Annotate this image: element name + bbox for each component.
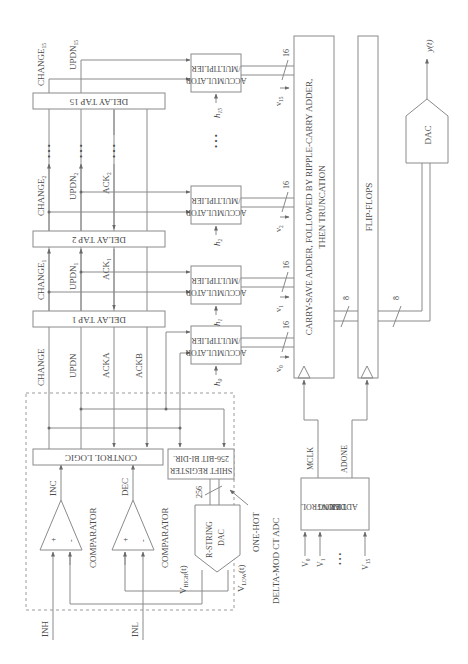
svg-text:v1: v1 — [274, 305, 284, 312]
svg-text:CHANGE15: CHANGE15 — [36, 43, 47, 86]
delay-tap-2: DELAY TAP 2 — [33, 231, 165, 247]
svg-text:UPDN15: UPDN15 — [68, 40, 79, 70]
delay-tap-1: DELAY TAP 1 — [33, 311, 165, 327]
svg-text:16: 16 — [282, 181, 291, 189]
svg-text:/MULTIPLIER: /MULTIPLIER — [191, 64, 241, 73]
shift-register-block: 256-BIT BI-DIR. SHIFT REGISTER — [168, 449, 234, 479]
svg-text:16: 16 — [282, 321, 291, 329]
svg-text:16: 16 — [282, 261, 291, 269]
svg-text:UPDN1: UPDN1 — [68, 262, 79, 290]
svg-text:h2: h2 — [212, 239, 223, 247]
bus-acc0: 16 v0 — [241, 321, 294, 372]
svg-text:DAC: DAC — [423, 125, 433, 144]
comparator-dec: + - COMPARATOR DEC — [112, 465, 170, 568]
svg-text:MCLK: MCLK — [306, 447, 315, 470]
svg-text:UPDN2: UPDN2 — [68, 172, 79, 200]
svg-text:ACKA: ACKA — [101, 352, 111, 378]
bus-acc2: 16 v2 — [241, 181, 294, 232]
svg-text:ADDER: ADDER — [330, 502, 358, 511]
svg-text:8: 8 — [342, 296, 351, 300]
svg-text:V15: V15 — [361, 558, 371, 570]
coefficient-h1: h1 — [212, 306, 223, 326]
svg-text:COMPARATOR: COMPARATOR — [160, 507, 170, 568]
svg-text:/MULTIPLIER: /MULTIPLIER — [191, 196, 241, 205]
input-inl: INL — [130, 552, 143, 640]
svg-text:8: 8 — [392, 296, 401, 300]
ellipsis-updn: • • • — [76, 144, 86, 158]
svg-text:• • •: • • • — [336, 552, 345, 565]
svg-text:INL: INL — [130, 622, 140, 637]
coefficient-h0: h0 — [212, 366, 223, 386]
svg-text:V0: V0 — [301, 558, 311, 567]
svg-text:-: - — [139, 539, 148, 542]
svg-text:h0: h0 — [212, 379, 223, 387]
svg-text:ACCUMULATOR: ACCUMULATOR — [185, 76, 246, 85]
svg-text:CHANGE1: CHANGE1 — [36, 260, 47, 301]
svg-text:THEN TRUNCATION: THEN TRUNCATION — [317, 165, 327, 249]
bus-acc15: 16 v15 — [241, 49, 294, 106]
adc-region-border — [26, 393, 234, 610]
svg-text:CHANGE2: CHANGE2 — [36, 176, 47, 217]
coefficient-h2: h2 — [212, 226, 223, 246]
svg-text:256-BIT BI-DIR.: 256-BIT BI-DIR. — [173, 454, 229, 463]
control-logic-block: CONTROL LOGIC — [33, 449, 163, 465]
svg-text:256: 256 — [195, 486, 204, 498]
svg-text:INC: INC — [48, 481, 58, 497]
svg-text:ACCUMULATOR: ACCUMULATOR — [185, 208, 246, 217]
svg-text:ACK2: ACK2 — [101, 172, 112, 194]
accumulator-multiplier-1: /MULTIPLIER ACCUMULATOR — [185, 266, 246, 304]
comparator-inc: + - COMPARATOR INC — [40, 465, 98, 568]
svg-text:R-STRING: R-STRING — [205, 521, 214, 558]
accumulator-multiplier-2: /MULTIPLIER ACCUMULATOR — [185, 186, 246, 224]
svg-text:DELAY TAP 2: DELAY TAP 2 — [72, 235, 126, 245]
svg-text:DAC: DAC — [217, 529, 226, 546]
delta-mod-ct-adc-fir-diagram: DELTA-MOD CT ADC INH INL + - COMPARATOR … — [0, 0, 468, 664]
svg-text:DELAY TAP 1: DELAY TAP 1 — [72, 315, 126, 325]
svg-text:VLOW(t): VLOW(t) — [236, 564, 247, 592]
svg-text:SHIFT REGISTER: SHIFT REGISTER — [169, 466, 232, 475]
svg-text:ONE-HOT: ONE-HOT — [251, 512, 261, 552]
svg-text:CARRY-SAVE ADDER, FOLLOWED BY: CARRY-SAVE ADDER, FOLLOWED BY RIPPLE-CAR… — [304, 79, 314, 335]
bus-acc1: 16 v1 — [241, 261, 294, 312]
svg-text:ADONE: ADONE — [340, 445, 349, 473]
svg-text:v0: v0 — [274, 365, 284, 372]
svg-text:/MULTIPLIER: /MULTIPLIER — [191, 276, 241, 285]
svg-text:+: + — [49, 537, 58, 542]
svg-text:DELAY TAP 15: DELAY TAP 15 — [69, 97, 128, 107]
svg-text:INH: INH — [40, 621, 50, 637]
svg-text:v15: v15 — [274, 96, 284, 106]
svg-text:16: 16 — [282, 49, 291, 57]
svg-text:ACKB: ACKB — [134, 353, 144, 378]
carry-save-adder-block: CARRY-SAVE ADDER, FOLLOWED BY RIPPLE-CAR… — [294, 36, 334, 378]
svg-text:UPDN: UPDN — [68, 353, 78, 378]
output-dac-block: DAC — [406, 99, 448, 163]
svg-text:ACCUMULATOR: ACCUMULATOR — [185, 348, 246, 357]
delay-tap-15: DELAY TAP 15 — [33, 93, 165, 109]
svg-text:V1: V1 — [316, 558, 326, 567]
output-yt-label: y(t) — [424, 40, 434, 54]
ellipsis-change: • • • — [44, 144, 54, 158]
svg-text:FLIP-FLOPS: FLIP-FLOPS — [364, 183, 374, 232]
input-inh: INH — [40, 552, 53, 640]
adc-region-title: DELTA-MOD CT ADC — [271, 518, 281, 604]
r-string-dac-block: R-STRING DAC — [195, 505, 240, 572]
svg-text:VHIGH(t): VHIGH(t) — [178, 565, 189, 594]
svg-text:CONTROL LOGIC: CONTROL LOGIC — [65, 453, 137, 463]
ellipsis-accumulators: • • • — [211, 134, 221, 148]
svg-text:v2: v2 — [274, 225, 284, 232]
svg-text:CHANGE: CHANGE — [36, 348, 46, 386]
flip-flops-block: FLIP-FLOPS — [358, 36, 378, 378]
accumulator-multiplier-0: /MULTIPLIER ACCUMULATOR — [185, 326, 246, 364]
svg-text:DEC: DEC — [120, 478, 130, 496]
adder-timing-control-block: CONTROL TIMING ADDER — [301, 478, 369, 530]
svg-text:-: - — [67, 539, 76, 542]
svg-text:h1: h1 — [212, 319, 223, 327]
ellipsis-ack: • • • — [109, 144, 119, 158]
svg-text:/MULTIPLIER: /MULTIPLIER — [191, 336, 241, 345]
coefficient-h15: h15 — [212, 94, 223, 118]
svg-text:ACK1: ACK1 — [101, 258, 112, 280]
svg-text:+: + — [121, 537, 130, 542]
svg-text:h15: h15 — [212, 108, 223, 118]
svg-text:COMPARATOR: COMPARATOR — [88, 507, 98, 568]
svg-text:ACCUMULATOR: ACCUMULATOR — [185, 288, 246, 297]
